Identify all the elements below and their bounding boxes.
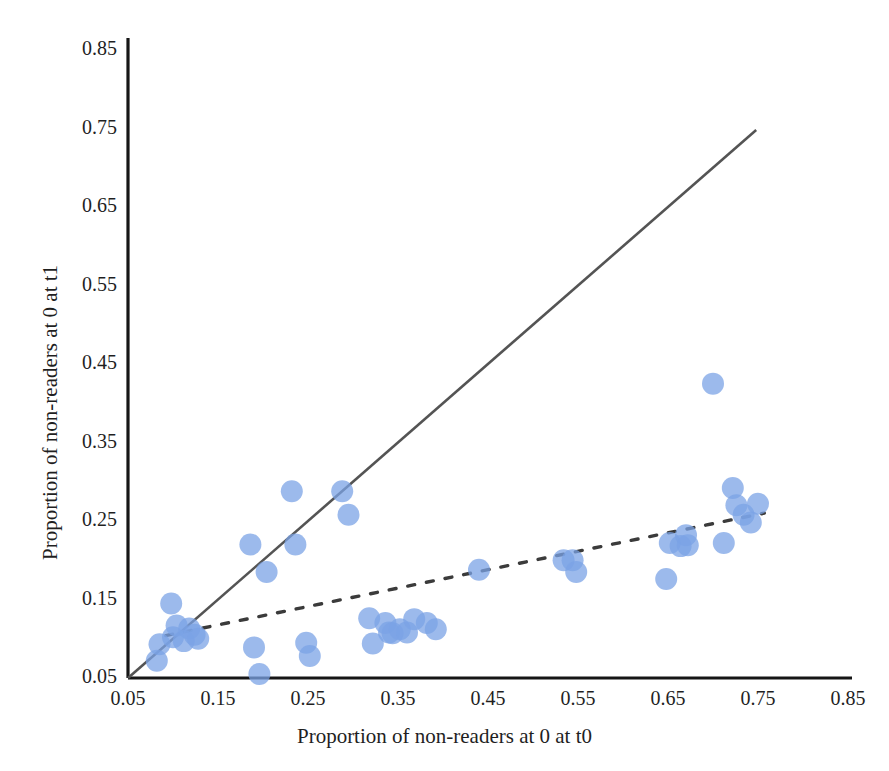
data-point [239, 534, 261, 556]
reference-lines [128, 130, 764, 678]
data-point [677, 534, 699, 556]
data-point [468, 559, 490, 581]
x-tick-label: 0.55 [533, 687, 623, 710]
data-point [331, 480, 353, 502]
data-point [713, 532, 735, 554]
x-tick-label: 0.65 [623, 687, 713, 710]
identity-line [128, 130, 756, 678]
y-tick-label: 0.85 [55, 37, 117, 60]
data-point [565, 561, 587, 583]
data-point [248, 663, 270, 685]
x-tick-label: 0.85 [803, 687, 889, 710]
data-points [146, 373, 769, 685]
x-tick-label: 0.75 [713, 687, 803, 710]
x-tick-label: 0.35 [353, 687, 443, 710]
data-point [338, 504, 360, 526]
x-tick-label: 0.45 [443, 687, 533, 710]
y-axis-title: Proportion of non-readers at 0 at t1 [38, 265, 63, 560]
y-tick-label: 0.15 [55, 587, 117, 610]
data-point [299, 645, 321, 667]
data-point [243, 636, 265, 658]
y-tick-label: 0.25 [55, 508, 117, 531]
data-point [187, 628, 209, 650]
data-point [284, 534, 306, 556]
data-point [425, 618, 447, 640]
plot-canvas [0, 0, 889, 771]
data-point [747, 493, 769, 515]
y-tick-label: 0.05 [55, 665, 117, 688]
data-point [702, 373, 724, 395]
y-tick-label: 0.75 [55, 116, 117, 139]
data-point [160, 592, 182, 614]
y-tick-label: 0.35 [55, 430, 117, 453]
data-point [655, 568, 677, 590]
data-point [256, 561, 278, 583]
x-tick-label: 0.15 [173, 687, 263, 710]
x-tick-label: 0.25 [263, 687, 353, 710]
data-point [281, 480, 303, 502]
x-axis-title: Proportion of non-readers at 0 at t0 [0, 724, 889, 749]
y-tick-label: 0.55 [55, 273, 117, 296]
scatter-plot-figure: 0.050.150.250.350.450.550.650.750.85 0.0… [0, 0, 889, 771]
x-tick-label: 0.05 [83, 687, 173, 710]
y-tick-label: 0.65 [55, 194, 117, 217]
data-point [740, 512, 762, 534]
y-tick-label: 0.45 [55, 351, 117, 374]
